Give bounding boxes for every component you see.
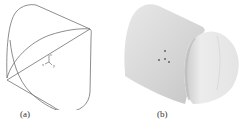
axis-label-x: x [42,62,44,67]
caption-a: (a) [20,109,30,119]
wireframe-drawing: z x y [0,0,121,110]
panel-b-shaded: (b) [121,0,243,130]
shaded-drawing [121,0,243,110]
caption-b: (b) [157,109,168,119]
axis-label-z: z [50,52,52,57]
axis-label-y: y [53,63,55,68]
panel-a-wireframe: z x y (a) [0,0,121,130]
